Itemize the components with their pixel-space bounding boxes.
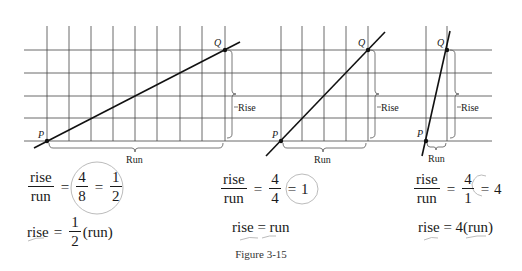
rise-braces xyxy=(227,50,459,138)
label-run-left: Run xyxy=(126,154,143,165)
grid-vertical-middle xyxy=(281,26,368,141)
equation-left-1: riserun = 48 = 12 xyxy=(26,170,124,204)
eq-den: 2 xyxy=(69,232,81,249)
label-run-middle: Run xyxy=(314,154,331,165)
label-q-middle: Q xyxy=(358,37,366,48)
eq-den: 1 xyxy=(462,189,474,206)
equation-middle-2: rise = run xyxy=(232,220,290,235)
eq-rise: rise xyxy=(27,225,49,240)
eq-rise: rise xyxy=(28,170,54,187)
eq-den: 2 xyxy=(110,187,122,204)
grid-vertical-left xyxy=(47,26,225,141)
equals-sign: = xyxy=(254,182,262,197)
label-rise-right: Rise xyxy=(461,102,479,113)
label-rise-middle: Rise xyxy=(381,102,399,113)
eq-rise-equals-4run: rise = 4(run) xyxy=(418,220,493,235)
eq-den: 8 xyxy=(76,187,88,204)
eq-rise: rise xyxy=(221,172,247,189)
equals-sign: = xyxy=(447,182,455,197)
label-rise-left: Rise xyxy=(238,102,256,113)
equation-right-1: riserun = 41 = 4 xyxy=(412,172,502,206)
label-p-left: P xyxy=(37,129,44,140)
label-p-middle: P xyxy=(271,129,278,140)
eq-num: 4 xyxy=(269,172,281,189)
equation-right-2: rise = 4(run) xyxy=(418,220,493,235)
eq-num: 4 xyxy=(76,170,88,187)
eq-num: 1 xyxy=(110,170,122,187)
run-braces xyxy=(49,143,446,152)
eq-rise-equals-run: rise = run xyxy=(232,220,290,235)
eq-run: run xyxy=(415,189,439,206)
label-run-right: Run xyxy=(428,153,445,164)
label-p-right: P xyxy=(416,128,423,139)
eq-rise: rise xyxy=(414,172,440,189)
equals-sign: = xyxy=(288,182,296,197)
equals-sign: = xyxy=(61,180,69,195)
eq-den: 4 xyxy=(269,189,281,206)
eq-result: 4 xyxy=(494,182,502,197)
equals-sign: = xyxy=(481,182,489,197)
eq-run: run xyxy=(29,187,53,204)
equation-middle-1: riserun = 44 = 1 xyxy=(219,172,309,206)
equals-sign: = xyxy=(54,225,62,240)
equation-left-2: rise = 12 (run) xyxy=(27,215,113,249)
line-left xyxy=(34,42,240,148)
eq-num: 1 xyxy=(69,215,81,232)
label-q-left: Q xyxy=(214,37,222,48)
points xyxy=(45,48,449,143)
figure-caption: Figure 3-15 xyxy=(0,248,522,260)
eq-run: run xyxy=(222,189,246,206)
eq-num: 4 xyxy=(462,172,474,189)
eq-run-paren: (run) xyxy=(83,225,113,240)
equals-sign: = xyxy=(95,180,103,195)
label-q-right: Q xyxy=(437,37,445,48)
eq-result: 1 xyxy=(301,182,309,197)
